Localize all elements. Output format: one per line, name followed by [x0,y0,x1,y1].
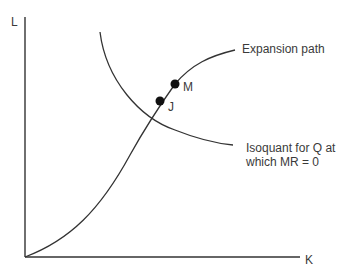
expansion-path-curve [25,50,235,257]
point-m-marker [171,80,180,89]
isoquant-label-line2: which MR = 0 [246,155,319,169]
x-axis-label: K [305,253,313,267]
isoquant-curve [100,32,233,145]
expansion-path-label: Expansion path [242,42,325,56]
point-j-label: J [168,100,174,114]
point-j-marker [156,97,165,106]
point-m-label: M [183,80,193,94]
y-axis-label: L [11,15,18,29]
isoquant-label-line1: Isoquant for Q at [246,141,335,155]
